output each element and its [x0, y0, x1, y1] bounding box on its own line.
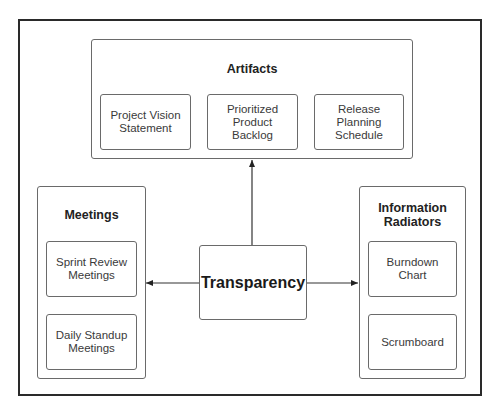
- burndown-chart-box: Burndown Chart: [368, 241, 457, 297]
- project-vision-statement-box: Project Vision Statement: [100, 94, 191, 150]
- information-radiators-title: Information Radiators: [360, 201, 465, 229]
- scrumboard-box: Scrumboard: [368, 314, 457, 370]
- meetings-title: Meetings: [38, 208, 145, 222]
- daily-standup-meetings-box: Daily Standup Meetings: [46, 314, 137, 370]
- sprint-review-meetings-box: Sprint Review Meetings: [46, 241, 137, 297]
- transparency-box: Transparency: [199, 245, 307, 320]
- prioritized-product-backlog-box: Prioritized Product Backlog: [207, 94, 298, 150]
- artifacts-title: Artifacts: [92, 62, 412, 76]
- release-planning-schedule-box: Release Planning Schedule: [314, 94, 404, 150]
